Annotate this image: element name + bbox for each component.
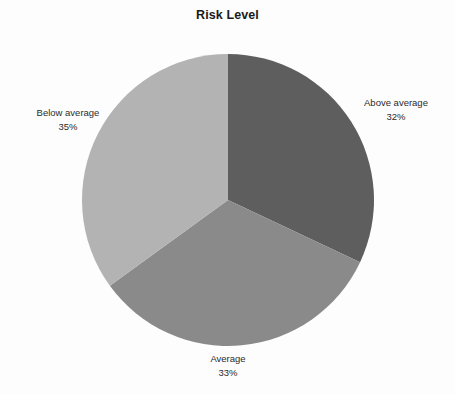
- pie-label-average-name: Average: [170, 352, 286, 366]
- pie-label-below-average-name: Below average: [10, 106, 126, 120]
- pie-label-average: Average 33%: [170, 352, 286, 380]
- pie-label-below-average: Below average 35%: [10, 106, 126, 134]
- pie-label-above-average-name: Above average: [338, 96, 454, 110]
- pie-slices: [82, 54, 374, 346]
- pie-label-above-average-value: 32%: [338, 110, 454, 124]
- pie-label-above-average: Above average 32%: [338, 96, 454, 124]
- pie-chart-canvas: [0, 0, 455, 394]
- pie-label-average-value: 33%: [170, 366, 286, 380]
- pie-label-below-average-value: 35%: [10, 120, 126, 134]
- pie-chart-figure: Risk Level Above average 32% Average 33%…: [0, 0, 455, 394]
